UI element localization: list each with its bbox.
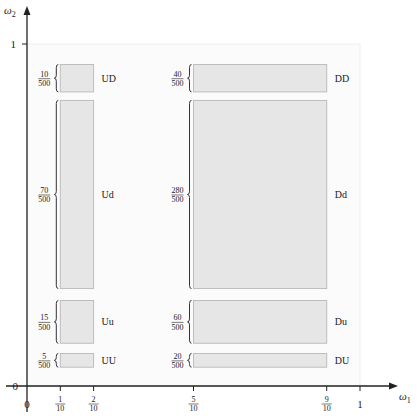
x-tick-denominator: 10: [190, 404, 198, 413]
region-box: [194, 65, 327, 92]
x-tick-numerator: 5: [192, 395, 196, 404]
region-probability-numerator: 15: [40, 313, 48, 322]
region-label: DU: [335, 355, 350, 366]
x-tick-numerator: 2: [92, 395, 96, 404]
region-box: [60, 301, 93, 344]
region-probability-denominator: 500: [172, 79, 184, 88]
x-tick-denominator: 10: [90, 404, 98, 413]
region-label: Uu: [102, 316, 114, 327]
region-probability-numerator: 10: [40, 70, 48, 79]
y-one-label: 1: [11, 38, 17, 50]
region-box: [194, 301, 327, 344]
region-box: [60, 100, 93, 288]
region-probability-numerator: 40: [174, 70, 182, 79]
region-box: [194, 100, 327, 288]
region-probability-numerator: 70: [40, 186, 48, 195]
region-label: DD: [335, 73, 349, 84]
region-probability-denominator: 500: [38, 323, 50, 332]
region-label: Du: [335, 316, 347, 327]
region-du: 20500DU: [172, 352, 350, 371]
region-probability-numerator: 60: [174, 313, 182, 322]
region-probability-numerator: 280: [172, 186, 184, 195]
x-tick-denominator: 10: [56, 404, 64, 413]
region-label: Dd: [335, 189, 347, 200]
x-ticks-layer: 110210510910: [55, 386, 331, 413]
region-dd: 280500Dd: [172, 100, 347, 288]
region-label: UD: [102, 73, 116, 84]
region-probability-denominator: 500: [38, 195, 50, 204]
probability-diagram: 10500UD70500Ud15500Uu5500UU40500DD280500…: [0, 0, 417, 418]
region-probability-numerator: 5: [42, 352, 46, 361]
region-probability-denominator: 500: [38, 361, 50, 370]
x-tick-denominator: 10: [323, 404, 331, 413]
x-origin-label: 0: [24, 398, 30, 410]
x-tick: 210: [89, 386, 99, 413]
x-axis-title: ω1: [399, 390, 411, 405]
region-probability-denominator: 500: [172, 195, 184, 204]
x-tick: 510: [189, 386, 199, 413]
region-du: 60500Du: [172, 301, 347, 344]
regions-layer: 10500UD70500Ud15500Uu5500UU40500DD280500…: [38, 65, 350, 371]
region-box: [60, 65, 93, 92]
region-label: Ud: [102, 189, 114, 200]
region-probability-numerator: 20: [174, 352, 182, 361]
region-probability-denominator: 500: [172, 361, 184, 370]
x-tick: 110: [55, 386, 65, 413]
x-tick-numerator: 1: [58, 395, 62, 404]
x-one-label: 1: [357, 398, 363, 410]
region-dd: 40500DD: [172, 65, 350, 92]
y-axis-title: ω2: [4, 4, 16, 19]
y-origin-label: 0: [13, 380, 19, 392]
region-label: UU: [102, 355, 117, 366]
x-axis-arrowhead: [389, 383, 398, 390]
region-box: [60, 354, 93, 368]
region-probability-denominator: 500: [172, 323, 184, 332]
y-axis-arrowhead: [24, 6, 31, 15]
x-tick: 910: [322, 386, 332, 413]
region-box: [194, 354, 327, 368]
x-tick-numerator: 9: [325, 395, 329, 404]
region-probability-denominator: 500: [38, 79, 50, 88]
